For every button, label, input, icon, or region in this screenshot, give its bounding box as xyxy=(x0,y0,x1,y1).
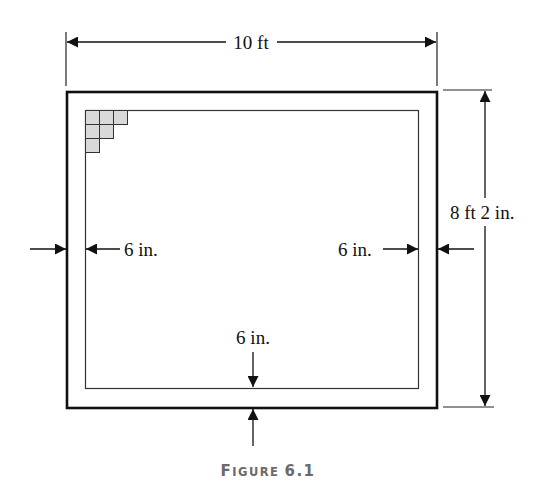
tile xyxy=(86,125,100,139)
tile xyxy=(100,125,114,139)
tile xyxy=(114,111,128,125)
width-label: 10 ft xyxy=(233,32,269,53)
caption-word: IGURE xyxy=(232,465,279,479)
figure-caption: FIGURE6.1 xyxy=(220,462,315,480)
right-border-dimension: 6 in. xyxy=(338,239,474,260)
tile xyxy=(86,139,100,153)
caption-initial: F xyxy=(220,462,232,480)
left-border-dimension: 6 in. xyxy=(30,239,158,260)
tile xyxy=(86,111,100,125)
tile-pattern xyxy=(86,111,128,153)
caption-number: 6.1 xyxy=(284,462,315,480)
tile xyxy=(100,111,114,125)
left-border-label: 6 in. xyxy=(124,239,158,260)
height-label: 8 ft 2 in. xyxy=(450,202,514,223)
right-border-label: 6 in. xyxy=(338,239,372,260)
width-dimension: 10 ft xyxy=(66,32,437,86)
outer-wall xyxy=(67,92,437,408)
bottom-border-label: 6 in. xyxy=(236,327,270,348)
bottom-border-dimension: 6 in. xyxy=(236,327,270,446)
figure-diagram: 10 ft 8 ft 2 in. 6 in. 6 in. 6 in. xyxy=(0,0,551,491)
